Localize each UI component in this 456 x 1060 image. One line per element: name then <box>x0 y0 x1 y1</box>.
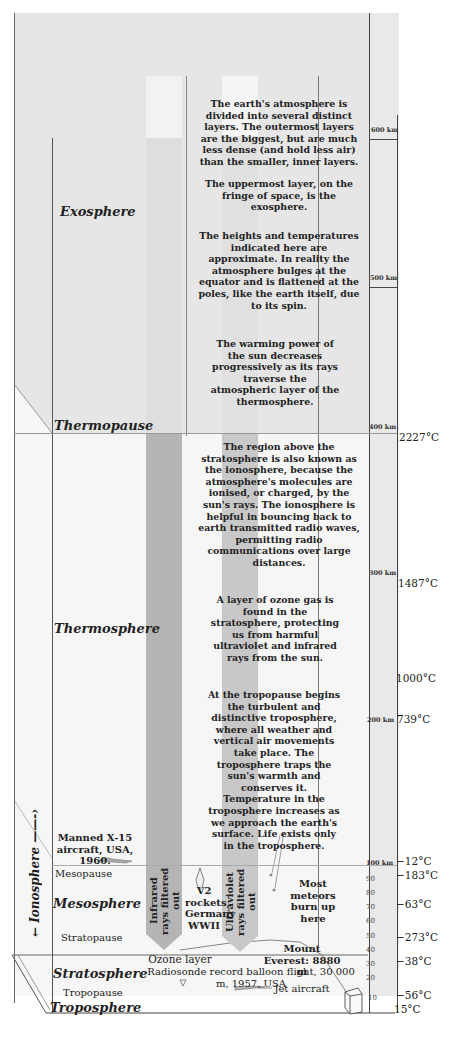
description-ozone: A layer of ozone gas is found in the str… <box>210 594 340 664</box>
description-warming: The warming power of the sun decreases p… <box>210 338 340 408</box>
annotation-x15: Manned X-15 aircraft, USA, 1960. <box>40 832 150 867</box>
tick-600km <box>369 139 397 140</box>
km-600: 600 km <box>371 126 398 134</box>
guide-line-2 <box>186 76 187 436</box>
km-90: 90 <box>366 875 375 883</box>
description-intro: The earth's atmosphere is divided into s… <box>196 98 362 168</box>
temp-minus38: −38°C <box>396 955 431 967</box>
ionosphere-indicator: ← Ionosphere ——-› <box>26 800 46 945</box>
temp-minus56: −56°C <box>396 989 431 1001</box>
km-400: 400 km <box>369 423 396 431</box>
km-80: 80 <box>366 889 375 897</box>
km-10: 10 <box>368 994 377 1002</box>
label-mesosphere: Mesosphere <box>53 896 141 911</box>
annotation-meteors: Most meteors burn up here <box>278 878 348 924</box>
km-300: 300 km <box>369 569 396 577</box>
tick-500km <box>369 287 397 288</box>
temp-15: 15°C <box>394 1003 421 1015</box>
description-ionosphere: The region above the stratosphere is als… <box>196 441 362 569</box>
label-thermosphere: Thermosphere <box>54 621 160 636</box>
label-mesopause: Mesopause <box>55 868 112 879</box>
km-500: 500 km <box>370 274 397 282</box>
label-thermopause: Thermopause <box>54 418 153 433</box>
thermopause-line <box>14 433 397 434</box>
temp-1000: 1000°C <box>396 672 436 684</box>
km-200: 200 km <box>367 716 394 724</box>
km-60: 60 <box>366 917 375 925</box>
km-100: 100 km <box>366 859 393 867</box>
km-40: 40 <box>366 946 375 954</box>
label-exosphere: Exosphere <box>60 204 136 219</box>
infrared-column-upper <box>146 138 182 433</box>
description-exosphere: The uppermost layer, on the fringe of sp… <box>196 178 362 213</box>
km-30: 30 <box>366 960 375 968</box>
temp-minus183: −183°C <box>396 869 438 881</box>
annotation-jet: Jet aircraft <box>272 983 332 995</box>
label-stratosphere: Stratosphere <box>53 966 148 981</box>
inner-left-line <box>52 138 53 1013</box>
temp-minus273: −273°C <box>396 931 438 943</box>
label-troposphere: Troposphere <box>50 1000 141 1015</box>
km-70: 70 <box>366 903 375 911</box>
infrared-column-top <box>146 76 182 138</box>
temp-minus63: −63°C <box>396 898 431 910</box>
frame-left-line <box>14 13 15 1003</box>
km-20: 20 <box>366 974 375 982</box>
label-tropopause: Tropopause <box>63 987 123 998</box>
temp-minus12: −12°C <box>396 855 431 867</box>
infrared-label: Infrared rays filtered out <box>148 866 180 936</box>
annotation-ozone: Ozone layer <box>140 954 220 966</box>
label-stratopause: Stratopause <box>61 932 123 943</box>
arrow-down-icon: ← <box>28 926 42 936</box>
temp-739: 739°C <box>397 713 430 725</box>
temp-2227: 2227°C <box>399 431 439 443</box>
km-50: 50 <box>366 932 375 940</box>
description-approximate: The heights and temperatures indicated h… <box>196 230 362 311</box>
description-troposphere: At the tropopause begins the turbulent a… <box>206 689 342 851</box>
temp-1487: 1487°C <box>398 577 438 589</box>
annotation-v2: V2 rockets, Germany WWII <box>185 885 223 931</box>
